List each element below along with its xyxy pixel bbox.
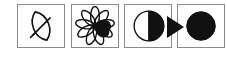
filled-circle-icon xyxy=(178,5,224,47)
leaf-icon xyxy=(18,5,64,47)
panel-flower[interactable] xyxy=(71,4,119,48)
panel-half-circle[interactable] xyxy=(124,4,172,48)
flower-center xyxy=(92,24,98,29)
half-filled-circle-icon xyxy=(125,5,171,47)
flower-icon xyxy=(72,5,118,47)
panel-solid-circle[interactable] xyxy=(177,4,225,48)
figure-container xyxy=(0,0,227,63)
panel-leaf[interactable] xyxy=(17,4,65,48)
